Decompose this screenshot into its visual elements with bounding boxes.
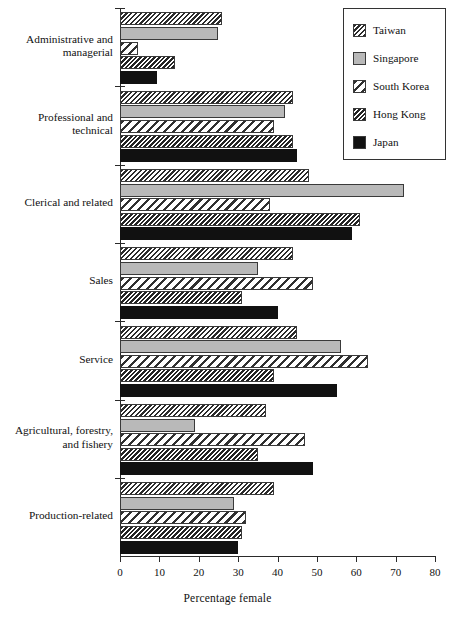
bar-taiwan (120, 169, 309, 182)
category-label-line: Administrative and (0, 33, 113, 47)
bar-singapore (120, 340, 341, 353)
bar-south-korea (120, 120, 274, 133)
category-label: Sales (0, 274, 113, 288)
bar-singapore (120, 27, 218, 40)
x-tick (199, 556, 200, 562)
bar-taiwan (120, 326, 297, 339)
legend-label: South Korea (373, 80, 429, 92)
bar-taiwan (120, 91, 293, 104)
bar-hong-kong (120, 526, 242, 539)
bar-south-korea (120, 433, 305, 446)
taiwan-swatch (353, 24, 366, 37)
bar-hong-kong (120, 369, 274, 382)
bar-hong-kong (120, 291, 242, 304)
x-tick-label: 0 (105, 566, 135, 578)
category-label: Clerical and related (0, 196, 113, 210)
bar-japan (120, 227, 352, 240)
x-tick-label: 40 (263, 566, 293, 578)
category-tick (115, 321, 125, 322)
bar-japan (120, 462, 313, 475)
bar-taiwan (120, 404, 266, 417)
x-tick (159, 556, 160, 562)
legend-item-south-korea: South Korea (353, 79, 429, 93)
bar-japan (120, 71, 157, 84)
category-label-line: Service (0, 353, 113, 367)
bar-south-korea (120, 198, 270, 211)
bar-south-korea (120, 355, 368, 368)
category-label: Agricultural, forestry,and fishery (0, 424, 113, 451)
category-label: Administrative andmanagerial (0, 33, 113, 60)
x-tick (317, 556, 318, 562)
x-tick-label: 50 (302, 566, 332, 578)
bar-japan (120, 306, 278, 319)
category-label-line: and fishery (0, 438, 113, 452)
category-label-line: Sales (0, 274, 113, 288)
x-tick-label: 20 (184, 566, 214, 578)
legend-label: Taiwan (373, 24, 406, 36)
category-tick (115, 165, 125, 166)
legend-item-taiwan: Taiwan (353, 23, 406, 37)
x-axis-title: Percentage female (0, 592, 455, 604)
x-tick-label: 10 (144, 566, 174, 578)
singapore-swatch (353, 52, 366, 65)
category-label: Production-related (0, 509, 113, 523)
category-label: Professional andtechnical (0, 111, 113, 138)
bar-hong-kong (120, 135, 293, 148)
legend-item-hong-kong: Hong Kong (353, 107, 426, 121)
x-tick (396, 556, 397, 562)
legend-label: Hong Kong (373, 108, 426, 120)
category-label-line: Production-related (0, 509, 113, 523)
hong-kong-swatch (353, 108, 366, 121)
category-tick (115, 400, 125, 401)
bar-hong-kong (120, 448, 258, 461)
bar-south-korea (120, 511, 246, 524)
bar-japan (120, 149, 297, 162)
category-label-line: technical (0, 124, 113, 138)
category-label-line: managerial (0, 46, 113, 60)
x-tick (435, 556, 436, 562)
category-tick (115, 8, 125, 9)
x-tick (356, 556, 357, 562)
x-tick-label: 80 (420, 566, 450, 578)
x-tick-label: 60 (341, 566, 371, 578)
japan-swatch (353, 136, 366, 149)
bar-taiwan (120, 12, 222, 25)
category-tick (115, 243, 125, 244)
category-label-line: Professional and (0, 111, 113, 125)
x-tick (120, 556, 121, 562)
bar-taiwan (120, 482, 274, 495)
x-tick (278, 556, 279, 562)
legend: TaiwanSingaporeSouth KoreaHong KongJapan (343, 8, 446, 160)
legend-item-singapore: Singapore (353, 51, 418, 65)
bar-chart: Administrative andmanagerialProfessional… (0, 0, 455, 622)
bar-singapore (120, 419, 195, 432)
x-tick-label: 70 (381, 566, 411, 578)
category-label-line: Clerical and related (0, 196, 113, 210)
bar-japan (120, 384, 337, 397)
legend-label: Singapore (373, 52, 418, 64)
bar-hong-kong (120, 213, 360, 226)
bar-singapore (120, 262, 258, 275)
south-korea-swatch (353, 80, 366, 93)
bar-taiwan (120, 247, 293, 260)
bar-japan (120, 541, 238, 554)
x-tick-label: 30 (223, 566, 253, 578)
bar-singapore (120, 497, 234, 510)
category-tick (115, 86, 125, 87)
category-tick (115, 478, 125, 479)
category-label-line: Agricultural, forestry, (0, 424, 113, 438)
bar-singapore (120, 184, 404, 197)
bar-south-korea (120, 277, 313, 290)
bar-south-korea (120, 42, 138, 55)
x-tick (238, 556, 239, 562)
legend-item-japan: Japan (353, 135, 398, 149)
category-label: Service (0, 353, 113, 367)
bar-singapore (120, 105, 285, 118)
bar-hong-kong (120, 56, 175, 69)
legend-label: Japan (373, 136, 398, 148)
